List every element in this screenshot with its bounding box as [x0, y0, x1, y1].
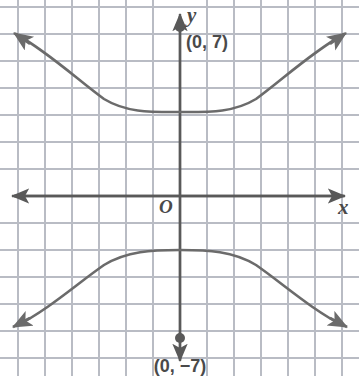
x-axis-label: x [337, 195, 349, 219]
point-label-0-7: (0, 7) [186, 32, 228, 52]
point-0-7-dot [175, 22, 185, 32]
origin-label: O [159, 196, 173, 217]
point-0-neg7-dot [175, 333, 185, 343]
graph-figure: y x O (0, 7) (0, −7) [0, 0, 359, 376]
coordinate-plane-svg: y x O (0, 7) (0, −7) [0, 0, 359, 376]
point-label-0-neg7: (0, −7) [154, 356, 207, 376]
curve-upper-arrow-left [14, 33, 30, 44]
curve-lower-arrow-left [13, 318, 30, 327]
curve-lower-arrow-right [330, 318, 347, 327]
curve-upper-arrow-right [330, 33, 346, 44]
